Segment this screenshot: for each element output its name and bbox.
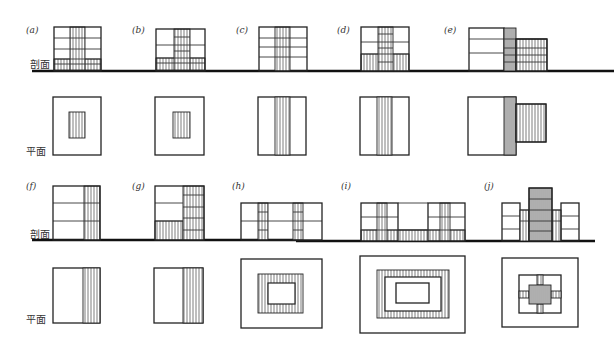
inner-ring bbox=[385, 277, 441, 311]
plan-i bbox=[360, 256, 465, 333]
shaded-core bbox=[183, 268, 203, 323]
plan-e bbox=[468, 97, 546, 155]
panel-i: (i) bbox=[341, 181, 465, 333]
panel-a: (a) bbox=[26, 25, 101, 155]
shaded-floor bbox=[155, 221, 183, 240]
plan-j bbox=[502, 258, 578, 327]
shaded-core bbox=[529, 285, 551, 304]
shaded-core-right bbox=[440, 203, 450, 241]
panel-label-a: (a) bbox=[26, 25, 39, 35]
plan-c bbox=[258, 97, 306, 155]
plan-f bbox=[53, 268, 100, 323]
section-label-bottom: 剖面 bbox=[30, 228, 50, 240]
arm-left bbox=[519, 291, 529, 298]
panel-label-i: (i) bbox=[341, 181, 351, 191]
panel-label-g: (g) bbox=[132, 181, 145, 191]
shaded-core bbox=[174, 29, 190, 70]
shaded-core bbox=[83, 268, 100, 323]
shaded-step-left bbox=[520, 210, 529, 241]
plan-d bbox=[360, 97, 409, 155]
section-b bbox=[156, 29, 205, 71]
plan-h bbox=[241, 259, 322, 328]
section-j bbox=[502, 188, 579, 241]
shaded-core bbox=[504, 28, 516, 71]
panel-label-d: (d) bbox=[337, 25, 350, 35]
shaded-core bbox=[504, 97, 516, 155]
plan-b bbox=[155, 97, 204, 155]
plan-a bbox=[53, 97, 101, 155]
section-f bbox=[53, 186, 100, 240]
panel-label-b: (b) bbox=[132, 25, 145, 35]
section-a bbox=[54, 27, 101, 71]
panel-g: (g) bbox=[132, 181, 204, 323]
shaded-core bbox=[69, 112, 85, 138]
section-label-top: 剖面 bbox=[30, 58, 50, 70]
panel-e: (e) bbox=[444, 25, 547, 155]
diagram-canvas: 剖面 平面 剖面 平面 (a) (b) bbox=[0, 0, 614, 355]
shaded-core bbox=[275, 97, 290, 155]
arm-right bbox=[551, 291, 561, 298]
shaded-step-right bbox=[552, 210, 561, 241]
panel-label-h: (h) bbox=[232, 181, 245, 191]
shaded-core bbox=[84, 186, 100, 240]
shaded-core bbox=[275, 27, 290, 71]
panel-h: (h) bbox=[232, 181, 322, 328]
plan-label-top: 平面 bbox=[26, 146, 46, 157]
panel-f: (f) bbox=[26, 181, 100, 323]
panel-label-e: (e) bbox=[444, 25, 457, 35]
arm-top bbox=[537, 275, 543, 285]
section-c bbox=[259, 27, 307, 71]
shaded-core bbox=[173, 112, 190, 138]
section-i bbox=[361, 203, 465, 241]
panel-c: (c) bbox=[236, 25, 307, 155]
plan-g bbox=[154, 268, 203, 323]
shaded-tower bbox=[529, 188, 552, 241]
panel-j: (j) bbox=[484, 181, 579, 327]
arm-bottom bbox=[537, 304, 543, 313]
plan-label-bottom: 平面 bbox=[26, 314, 46, 325]
section-e bbox=[469, 28, 547, 71]
section-h bbox=[241, 203, 322, 240]
shaded-core bbox=[377, 97, 392, 155]
section-g bbox=[155, 186, 204, 240]
shaded-core-left bbox=[258, 203, 268, 240]
panel-label-f: (f) bbox=[26, 181, 37, 191]
panel-label-c: (c) bbox=[236, 25, 249, 35]
shaded-wing bbox=[516, 104, 546, 142]
shaded-core-right bbox=[293, 203, 303, 240]
shaded-core bbox=[183, 186, 204, 240]
section-d bbox=[361, 27, 409, 71]
panel-d: (d) bbox=[337, 25, 409, 155]
panel-label-j: (j) bbox=[484, 181, 494, 191]
shaded-core-left bbox=[377, 203, 387, 241]
courtyard bbox=[268, 283, 295, 304]
panel-b: (b) bbox=[132, 25, 205, 155]
